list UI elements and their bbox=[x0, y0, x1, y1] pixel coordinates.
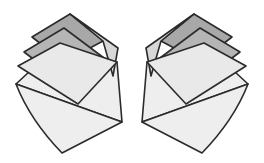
fan-diagram-svg bbox=[0, 0, 264, 163]
figure-canvas bbox=[0, 0, 264, 163]
